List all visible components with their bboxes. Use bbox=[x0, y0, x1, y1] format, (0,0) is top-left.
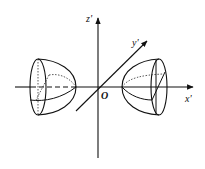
origin-label: O bbox=[101, 91, 108, 101]
diagram-graphic bbox=[0, 0, 205, 169]
x-axis-label: x' bbox=[185, 94, 192, 104]
y-axis-label: y' bbox=[132, 38, 139, 48]
z-axis-label: z' bbox=[86, 14, 92, 24]
coordinate-diagram: z' y' x' O bbox=[0, 0, 205, 169]
left-dome-solid bbox=[30, 59, 76, 115]
y-axis bbox=[76, 41, 147, 111]
